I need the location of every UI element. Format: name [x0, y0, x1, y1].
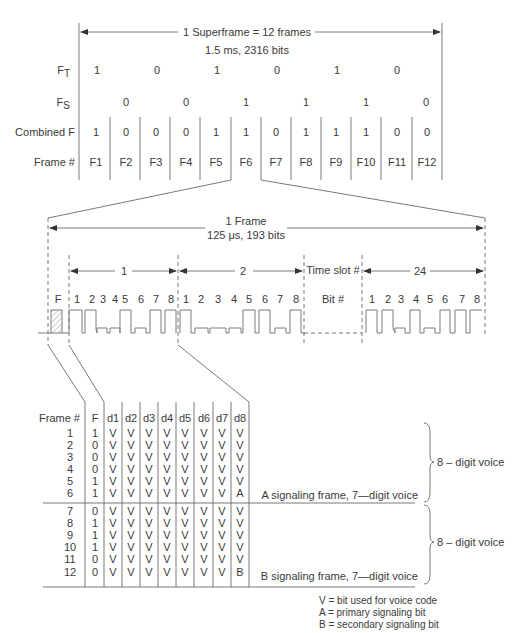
svg-text:4: 4: [67, 463, 73, 475]
legend-b: B = secondary signaling bit: [319, 619, 439, 630]
legend-v: V = bit used for voice code: [319, 595, 438, 606]
superframe-section: 1 Superframe = 12 frames 1.5 ms, 2316 bi…: [15, 23, 485, 218]
svg-text:V: V: [181, 566, 189, 578]
svg-text:6: 6: [262, 293, 268, 305]
combined-f-row-label: Combined F: [15, 126, 75, 138]
svg-text:V: V: [145, 553, 153, 565]
table-row: 70VVVVVVVV: [67, 505, 244, 517]
table-row: 40VVVVVVVV: [67, 463, 244, 475]
svg-text:2: 2: [67, 439, 73, 451]
brace-upper: [424, 423, 434, 502]
svg-text:V: V: [109, 505, 117, 517]
svg-text:V: V: [200, 451, 208, 463]
svg-text:11: 11: [64, 553, 75, 565]
svg-text:1: 1: [363, 96, 369, 108]
legend-a: A = primary signaling bit: [319, 607, 426, 618]
svg-text:V: V: [200, 553, 208, 565]
slot1-bit-numbers: 1 2 3 4 5 6 7 8: [74, 293, 174, 305]
svg-text:V: V: [218, 553, 226, 565]
svg-text:F7: F7: [270, 156, 283, 168]
svg-text:V: V: [218, 487, 226, 499]
svg-text:10: 10: [64, 541, 76, 553]
svg-text:V: V: [145, 427, 153, 439]
svg-text:V: V: [163, 541, 171, 553]
svg-text:V: V: [127, 566, 135, 578]
svg-text:V: V: [145, 463, 153, 475]
svg-text:V: V: [127, 427, 135, 439]
svg-text:F: F: [92, 412, 99, 424]
svg-text:V: V: [127, 475, 135, 487]
expand-line-right: [261, 180, 485, 218]
svg-text:V: V: [200, 541, 208, 553]
svg-text:V: V: [145, 517, 153, 529]
svg-text:0: 0: [274, 64, 280, 76]
svg-text:1: 1: [94, 64, 100, 76]
svg-text:7: 7: [277, 293, 283, 305]
svg-text:V: V: [109, 517, 117, 529]
svg-text:F9: F9: [330, 156, 343, 168]
svg-text:F2: F2: [120, 156, 133, 168]
svg-text:V: V: [163, 529, 171, 541]
bit-number-label: Bit #: [322, 293, 345, 305]
svg-text:F10: F10: [357, 156, 376, 168]
svg-text:d8: d8: [234, 412, 246, 424]
svg-text:5: 5: [427, 293, 433, 305]
svg-text:2: 2: [89, 293, 95, 305]
svg-text:V: V: [181, 517, 189, 529]
svg-text:0: 0: [153, 126, 159, 138]
svg-text:0: 0: [423, 96, 429, 108]
svg-text:4: 4: [231, 293, 237, 305]
svg-text:V: V: [181, 553, 189, 565]
t1-superframe-diagram: 1 Superframe = 12 frames 1.5 ms, 2316 bi…: [0, 0, 515, 633]
svg-text:1: 1: [243, 126, 249, 138]
svg-text:V: V: [181, 463, 189, 475]
svg-text:V: V: [109, 463, 117, 475]
svg-text:1: 1: [92, 541, 98, 553]
svg-text:V: V: [127, 451, 135, 463]
svg-text:2: 2: [198, 293, 204, 305]
connector-d1: [69, 345, 104, 402]
svg-text:V: V: [200, 505, 208, 517]
table-row: 101VVVVVVVV: [64, 541, 244, 553]
svg-text:d1: d1: [107, 412, 119, 424]
svg-text:V: V: [163, 553, 171, 565]
table-row: 20VVVVVVVV: [67, 439, 244, 451]
svg-text:V: V: [181, 541, 189, 553]
svg-text:V: V: [109, 541, 117, 553]
ft-values: 1 0 1 0 1 0: [94, 64, 400, 76]
svg-text:8: 8: [474, 293, 480, 305]
svg-text:6: 6: [67, 487, 73, 499]
svg-text:0: 0: [154, 64, 160, 76]
svg-text:V: V: [236, 427, 244, 439]
svg-text:3: 3: [398, 293, 404, 305]
svg-text:V: V: [127, 541, 135, 553]
connector-f: [48, 345, 85, 402]
svg-text:V: V: [200, 439, 208, 451]
frame-number-row-label: Frame #: [34, 156, 76, 168]
svg-text:V: V: [145, 505, 153, 517]
a-signaling-note: A signaling frame, 7—digit voice: [261, 489, 418, 501]
slot24-bit-numbers: 1 2 3 4 5 6 7 8: [369, 293, 480, 305]
svg-text:0: 0: [92, 505, 98, 517]
svg-text:4: 4: [413, 293, 419, 305]
svg-text:V: V: [109, 529, 117, 541]
svg-text:0: 0: [92, 566, 98, 578]
svg-text:6: 6: [442, 293, 448, 305]
svg-text:V: V: [218, 505, 226, 517]
svg-text:V: V: [236, 439, 244, 451]
svg-text:V: V: [145, 541, 153, 553]
svg-text:0: 0: [183, 126, 189, 138]
svg-text:V: V: [236, 541, 244, 553]
svg-text:d2: d2: [125, 412, 137, 424]
svg-text:V: V: [218, 463, 226, 475]
svg-text:V: V: [200, 475, 208, 487]
svg-text:1: 1: [92, 529, 98, 541]
brace-lower-label: 8 – digit voice: [437, 536, 504, 548]
svg-text:V: V: [127, 553, 135, 565]
frame-section: 1 Frame 125 μs, 193 bits 1 2 Time slot #…: [38, 215, 485, 402]
svg-text:0: 0: [123, 96, 129, 108]
svg-text:V: V: [145, 439, 153, 451]
svg-text:V: V: [109, 451, 117, 463]
svg-text:1: 1: [92, 475, 98, 487]
combined-f-values: 1 0 0 0 1 1 0 1 1 1 0 0: [93, 126, 430, 138]
